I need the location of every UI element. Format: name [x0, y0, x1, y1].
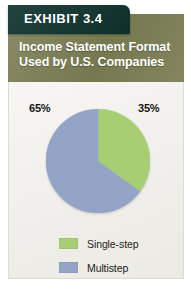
exhibit-title-line-1: Income Statement Format [19, 40, 181, 55]
legend-item-multistep: Multistep [59, 258, 179, 277]
exhibit-card: Income Statement Format Used by U.S. Com… [8, 4, 184, 279]
pie-svg [46, 109, 150, 213]
chart-legend: Single-step Multistep [59, 234, 179, 282]
legend-item-single-step: Single-step [59, 234, 179, 253]
pie-label-single-step: 35% [138, 102, 159, 114]
legend-label-single-step: Single-step [87, 238, 138, 250]
legend-swatch-multistep [59, 262, 78, 273]
exhibit-title-line-2: Used by U.S. Companies [19, 55, 181, 70]
exhibit-figure: Income Statement Format Used by U.S. Com… [0, 0, 191, 289]
legend-swatch-single-step [59, 238, 78, 249]
pie-graphic [46, 109, 150, 213]
exhibit-number-tab: EXHIBIT 3.4 [8, 5, 130, 34]
exhibit-title: Income Statement Format Used by U.S. Com… [19, 40, 181, 69]
chart-plate: 65% 35% Single-step Multistep [8, 82, 184, 279]
legend-label-multistep: Multistep [87, 262, 128, 274]
pie-label-multistep: 65% [29, 102, 50, 114]
exhibit-number-label: EXHIBIT 3.4 [24, 11, 102, 26]
pie-chart [46, 109, 150, 213]
